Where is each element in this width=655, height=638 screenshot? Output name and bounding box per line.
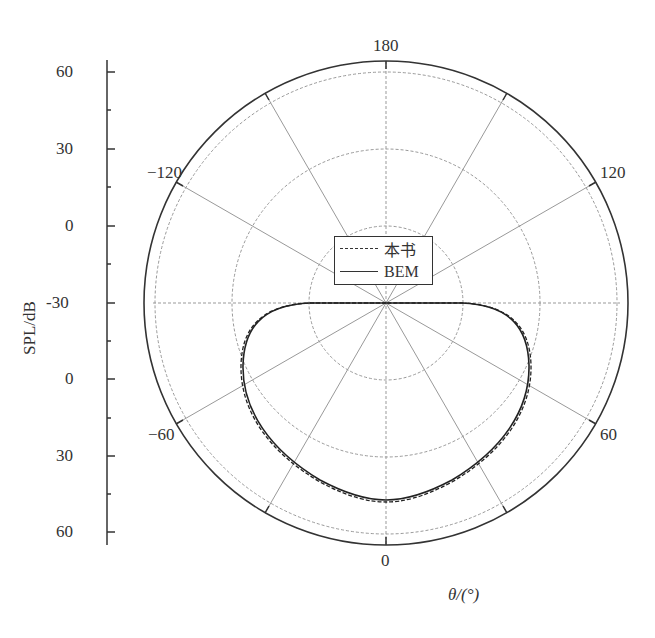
angle-label-m60: −60 [148,425,175,445]
legend-item-bem: BEM [335,260,432,283]
legend-label: 本书 [384,237,416,261]
y-tick: 30 [56,446,73,466]
legend-label: BEM [384,263,419,281]
y-tick: -30 [46,293,69,313]
y-tick: 30 [56,139,73,159]
y-tick: 0 [65,369,74,389]
angle-label-120: 120 [600,163,626,183]
angle-label-0: 0 [381,551,390,571]
solid-line-swatch [340,271,378,272]
y-axis-label: SPL/dB [20,301,40,355]
y-tick: 60 [56,62,73,82]
polar-plot [0,0,655,638]
y-axis [107,60,115,545]
y-tick: 60 [56,522,73,542]
y-tick: 0 [65,216,74,236]
angle-label-m120: −120 [147,163,182,183]
dashed-line-swatch [340,248,378,249]
angle-label-180: 180 [373,36,399,56]
legend: 本书 BEM [334,236,433,285]
angle-label-60: 60 [600,425,617,445]
legend-item-benshu: 本书 [335,237,432,260]
x-axis-label: θ/(°) [448,585,479,605]
